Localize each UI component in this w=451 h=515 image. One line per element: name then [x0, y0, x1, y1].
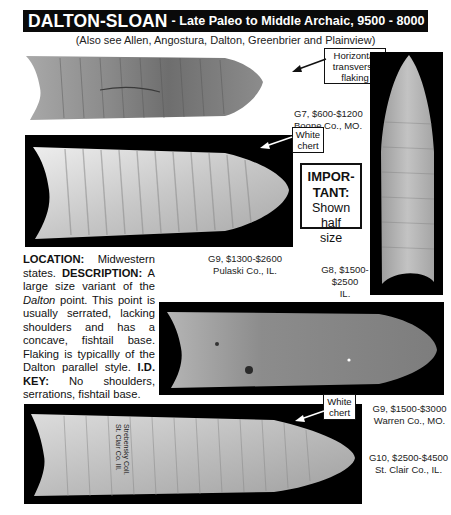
projectile-point-image — [370, 52, 443, 295]
arrow-icon — [258, 134, 294, 150]
description-text: LOCATION: Midwestern states. DESCRIPTION… — [23, 253, 155, 402]
svg-text:Strebensky Coll.: Strebensky Coll. — [122, 424, 130, 475]
specimen-caption-3: G8, $1500- $2500 IL. — [316, 264, 374, 300]
page-subtitle: - Late Paleo to Middle Archaic, 9500 - 8… — [172, 14, 451, 28]
projectile-point-image — [25, 135, 293, 247]
specimen-caption-2: G9, $1300-$2600 Pulaski Co., IL. — [200, 253, 290, 277]
location-label: LOCATION: — [23, 253, 84, 265]
svg-text:St. Clair Co. Ill.: St. Clair Co. Ill. — [115, 424, 122, 471]
specimen-photo-4 — [159, 302, 444, 395]
page-header: DALTON-SLOAN - Late Paleo to Middle Arch… — [23, 10, 428, 32]
arrow-icon — [294, 408, 326, 424]
callout-white-chert-2: White chert — [323, 394, 356, 420]
specimen-photo-1 — [20, 52, 265, 124]
projectile-point-image — [20, 52, 265, 124]
specimen-photo-3 — [370, 52, 443, 295]
arrow-icon — [290, 55, 330, 75]
callout-white-chert-1: White chert — [292, 127, 324, 153]
page-title: DALTON-SLOAN — [28, 11, 168, 32]
projectile-point-image — [159, 302, 444, 395]
see-also-note: (Also see Allen, Angostura, Dalton, Gree… — [0, 34, 451, 46]
specimen-caption-4: G9, $1500-$3000 Warren Co., MO. — [368, 403, 451, 427]
important-note-box: IMPOR- TANT: Shown half size — [300, 163, 362, 229]
specimen-caption-5: G10, $2500-$4500 St. Clair Co., IL. — [366, 452, 451, 476]
description-label: DESCRIPTION: — [62, 267, 142, 279]
specimen-photo-2 — [25, 135, 293, 247]
specimen-inscription: St. Clair Co. Ill. Strebensky Coll. — [115, 424, 130, 475]
